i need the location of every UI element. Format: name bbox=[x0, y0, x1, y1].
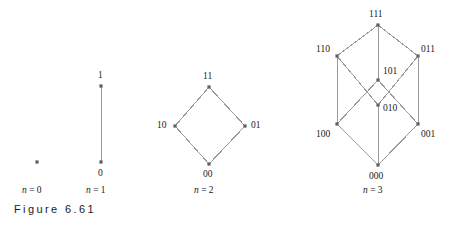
figure-caption: Figure 6.61 bbox=[14, 204, 96, 215]
lattice-edge bbox=[175, 126, 209, 164]
lattice-node bbox=[99, 84, 102, 87]
lattice-node bbox=[243, 124, 246, 127]
node-label: 111 bbox=[369, 10, 383, 20]
node-label: 101 bbox=[383, 67, 397, 77]
lattice-edge bbox=[209, 87, 245, 126]
lattice-edge bbox=[337, 124, 378, 165]
lattice-node bbox=[335, 122, 338, 125]
panel-caption-n2: n = 2 bbox=[194, 186, 214, 196]
lattice-node bbox=[35, 160, 38, 163]
node-label: 11 bbox=[203, 72, 212, 82]
lattice-node bbox=[376, 163, 379, 166]
node-label: 100 bbox=[316, 130, 330, 140]
figure-container: 1011100100111110011101010100001000 n = 0… bbox=[0, 0, 452, 227]
node-label: 00 bbox=[203, 170, 213, 180]
lattice-diagrams-svg bbox=[0, 0, 452, 227]
caption-value: = 1 bbox=[91, 185, 106, 195]
lattice-edge bbox=[378, 56, 418, 105]
lattice-edge bbox=[337, 80, 378, 124]
lattice-edge bbox=[378, 80, 418, 124]
lattice-node bbox=[207, 162, 210, 165]
panel-caption-n0: n = 0 bbox=[22, 186, 42, 196]
lattice-node bbox=[376, 23, 379, 26]
lattice-edge bbox=[337, 56, 378, 105]
node-label: 1 bbox=[98, 71, 103, 81]
lattice-node bbox=[335, 54, 338, 57]
lattice-node bbox=[173, 124, 176, 127]
lattice-node bbox=[207, 85, 210, 88]
node-label: 011 bbox=[421, 45, 435, 55]
node-label: 010 bbox=[383, 104, 397, 114]
lattice-node bbox=[376, 103, 379, 106]
lattice-node bbox=[416, 54, 419, 57]
caption-value: = 0 bbox=[27, 185, 42, 195]
edges-group bbox=[101, 25, 418, 165]
node-label: 01 bbox=[251, 121, 261, 131]
panel-caption-n3: n = 3 bbox=[363, 186, 383, 196]
node-label: 110 bbox=[316, 45, 330, 55]
lattice-node bbox=[416, 122, 419, 125]
lattice-edge bbox=[378, 124, 418, 165]
lattice-edge bbox=[378, 25, 418, 56]
panel-caption-n1: n = 1 bbox=[86, 186, 106, 196]
lattice-node bbox=[99, 160, 102, 163]
node-label: 001 bbox=[421, 130, 435, 140]
caption-value: = 3 bbox=[368, 185, 383, 195]
node-label: 10 bbox=[157, 121, 167, 131]
node-label: 000 bbox=[369, 172, 383, 182]
lattice-edge bbox=[209, 126, 245, 164]
lattice-node bbox=[376, 78, 379, 81]
lattice-edge bbox=[337, 25, 378, 56]
caption-value: = 2 bbox=[199, 185, 214, 195]
node-label: 0 bbox=[98, 169, 103, 179]
lattice-edge bbox=[175, 87, 209, 126]
